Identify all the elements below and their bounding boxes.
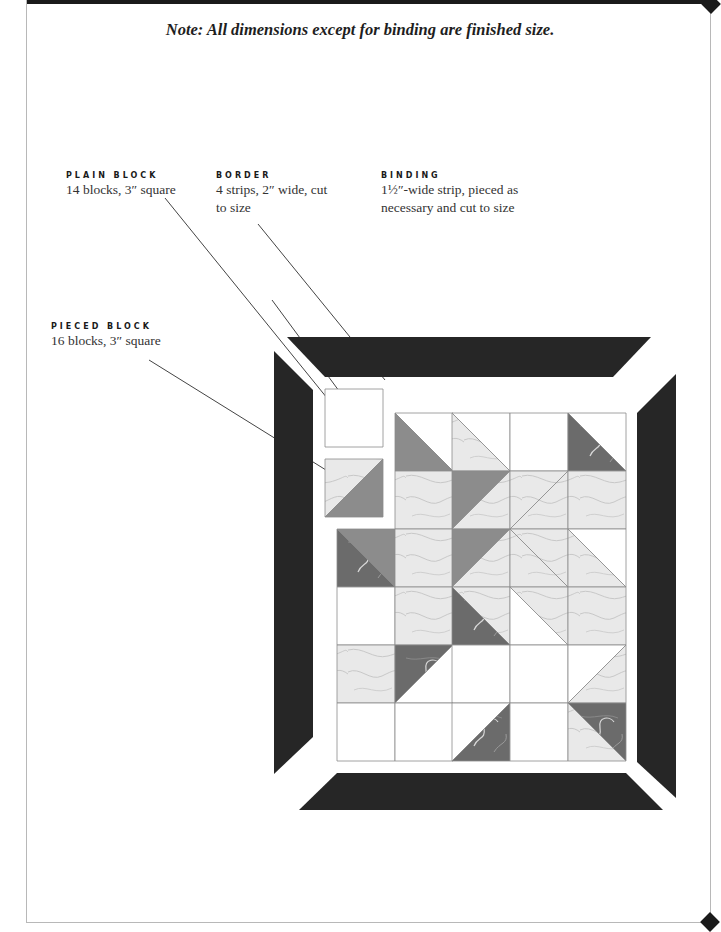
- quilt-block: [568, 645, 626, 703]
- quilt-block: [568, 529, 626, 587]
- quilt-block-plain: [395, 703, 453, 761]
- quilt-block: [568, 703, 626, 761]
- quilt-block: [568, 587, 626, 645]
- quilt-block: [395, 529, 453, 587]
- quilt-block: [337, 529, 395, 587]
- quilt-block: [568, 413, 626, 471]
- quilt-block: [452, 703, 510, 761]
- plain-block-sample: [325, 389, 383, 447]
- quilt-block-plain: [510, 645, 568, 703]
- quilt-block: [395, 413, 453, 471]
- border-strip-bottom: [299, 773, 663, 810]
- quilt-block-plain: [510, 703, 568, 761]
- quilt-block: [510, 529, 568, 587]
- plain-block-leader-line: [165, 198, 340, 414]
- quilt-block-plain: [337, 587, 395, 645]
- border-strip-right: [637, 374, 676, 798]
- plain-block-sample-plain: [325, 389, 383, 447]
- quilt-block-solid: [395, 587, 453, 645]
- quilt-block: [568, 471, 626, 529]
- quilt-block: [510, 471, 568, 529]
- quilt-block: [337, 587, 395, 645]
- quilt-block-solid: [395, 529, 453, 587]
- quilt-block-plain: [337, 703, 395, 761]
- sample-blocks: [325, 389, 383, 517]
- quilt-block: [395, 645, 453, 703]
- quilt-block: [337, 703, 395, 761]
- quilt-block: [510, 645, 568, 703]
- quilt-block-solid: [337, 645, 395, 703]
- pieced-block-sample: [325, 459, 383, 517]
- quilt-block: [452, 587, 510, 645]
- quilt-block: [452, 413, 510, 471]
- quilt-block: [337, 645, 395, 703]
- quilt-block: [395, 703, 453, 761]
- quilt-block-solid: [568, 471, 626, 529]
- quilt-block: [510, 703, 568, 761]
- border-strip-top: [287, 337, 651, 377]
- quilt-block-solid: [395, 471, 453, 529]
- quilt-block: [395, 471, 453, 529]
- quilt-block-solid: [568, 587, 626, 645]
- quilt-block: [452, 471, 510, 529]
- quilt-block: [452, 529, 510, 587]
- quilt-block-plain: [452, 645, 510, 703]
- border-strip-left: [274, 351, 313, 774]
- quilt-block: [510, 587, 568, 645]
- quilt-block: [510, 413, 568, 471]
- quilt-block: [395, 587, 453, 645]
- quilt-block: [452, 645, 510, 703]
- quilt-block-plain: [510, 413, 568, 471]
